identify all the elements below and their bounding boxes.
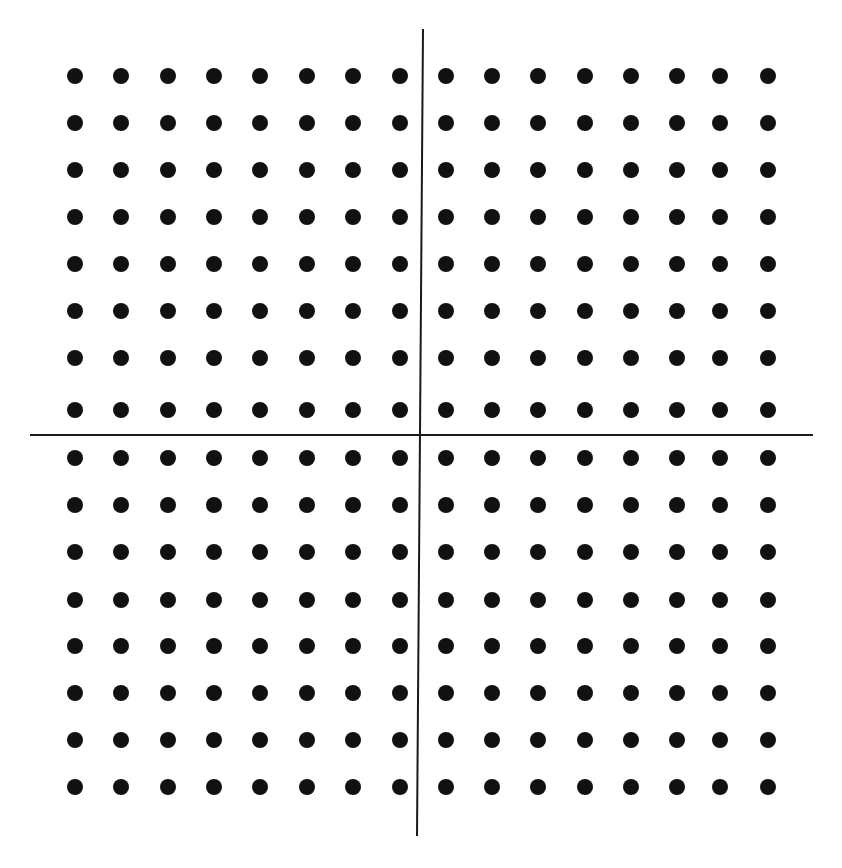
grid-dot xyxy=(392,256,408,272)
grid-dot xyxy=(206,638,222,654)
grid-dot xyxy=(530,256,546,272)
grid-dot xyxy=(206,592,222,608)
grid-dot xyxy=(392,497,408,513)
grid-dot xyxy=(206,303,222,319)
grid-dot xyxy=(623,209,639,225)
grid-dot xyxy=(392,303,408,319)
grid-dot xyxy=(760,115,776,131)
grid-dot xyxy=(67,544,83,560)
grid-dot xyxy=(530,732,546,748)
grid-dot xyxy=(113,544,129,560)
grid-dot xyxy=(577,68,593,84)
grid-dot xyxy=(438,497,454,513)
grid-dot xyxy=(299,256,315,272)
grid-dot xyxy=(712,209,728,225)
grid-dot xyxy=(669,350,685,366)
grid-dot xyxy=(577,450,593,466)
grid-dot xyxy=(67,638,83,654)
grid-dot xyxy=(530,779,546,795)
grid-dot xyxy=(206,402,222,418)
grid-dot xyxy=(160,115,176,131)
horizontal-axis xyxy=(30,434,813,436)
grid-dot xyxy=(252,685,268,701)
grid-dot xyxy=(113,350,129,366)
grid-dot xyxy=(160,544,176,560)
grid-dot xyxy=(67,402,83,418)
grid-dot xyxy=(67,115,83,131)
grid-dot xyxy=(669,638,685,654)
grid-dot xyxy=(299,162,315,178)
grid-dot xyxy=(345,402,361,418)
vertical-axis xyxy=(416,29,424,836)
grid-dot xyxy=(160,303,176,319)
grid-dot xyxy=(299,638,315,654)
grid-dot xyxy=(438,732,454,748)
grid-dot xyxy=(345,209,361,225)
grid-dot xyxy=(345,68,361,84)
grid-dot xyxy=(392,350,408,366)
grid-dot xyxy=(113,732,129,748)
grid-dot xyxy=(113,779,129,795)
grid-dot xyxy=(345,256,361,272)
grid-dot xyxy=(252,779,268,795)
grid-dot xyxy=(577,256,593,272)
grid-dot xyxy=(392,115,408,131)
grid-dot xyxy=(252,209,268,225)
grid-dot xyxy=(438,592,454,608)
grid-dot xyxy=(577,497,593,513)
grid-dot xyxy=(299,68,315,84)
grid-dot xyxy=(206,162,222,178)
grid-dot xyxy=(113,402,129,418)
grid-dot xyxy=(712,402,728,418)
grid-dot xyxy=(206,779,222,795)
grid-dot xyxy=(530,402,546,418)
grid-dot xyxy=(345,685,361,701)
grid-dot xyxy=(160,402,176,418)
grid-dot xyxy=(160,450,176,466)
grid-dot xyxy=(623,402,639,418)
grid-dot xyxy=(438,256,454,272)
grid-dot xyxy=(577,544,593,560)
grid-dot xyxy=(669,450,685,466)
grid-dot xyxy=(392,592,408,608)
grid-dot xyxy=(113,115,129,131)
grid-dot xyxy=(67,350,83,366)
grid-dot xyxy=(484,303,500,319)
grid-dot xyxy=(623,685,639,701)
grid-dot xyxy=(206,256,222,272)
grid-dot xyxy=(206,68,222,84)
grid-dot xyxy=(67,592,83,608)
grid-dot xyxy=(113,162,129,178)
grid-dot xyxy=(760,303,776,319)
grid-dot xyxy=(577,779,593,795)
grid-dot xyxy=(530,450,546,466)
grid-dot xyxy=(67,303,83,319)
grid-dot xyxy=(577,402,593,418)
grid-dot xyxy=(530,497,546,513)
grid-dot xyxy=(299,115,315,131)
grid-dot xyxy=(577,303,593,319)
grid-dot xyxy=(669,592,685,608)
grid-dot xyxy=(392,779,408,795)
grid-dot xyxy=(345,303,361,319)
grid-dot xyxy=(484,732,500,748)
grid-dot xyxy=(530,303,546,319)
grid-dot xyxy=(484,450,500,466)
grid-dot xyxy=(252,450,268,466)
grid-dot xyxy=(438,350,454,366)
grid-dot xyxy=(484,638,500,654)
grid-dot xyxy=(160,497,176,513)
grid-dot xyxy=(392,685,408,701)
grid-dot xyxy=(252,592,268,608)
grid-dot xyxy=(623,779,639,795)
grid-dot xyxy=(252,256,268,272)
grid-dot xyxy=(484,162,500,178)
grid-dot xyxy=(252,497,268,513)
grid-dot xyxy=(252,638,268,654)
grid-dot xyxy=(530,685,546,701)
grid-dot xyxy=(160,162,176,178)
grid-dot xyxy=(438,638,454,654)
grid-dot xyxy=(252,732,268,748)
dot-grid-diagram xyxy=(0,0,842,868)
grid-dot xyxy=(67,497,83,513)
